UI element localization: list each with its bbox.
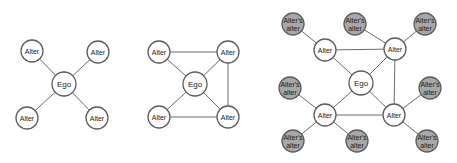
node-label: alter — [350, 142, 364, 149]
alters-alter-node: Alter'salter — [419, 77, 441, 99]
node-label: Alter's — [280, 81, 300, 88]
node-label: Alter — [90, 115, 105, 122]
node-label: Alter — [152, 49, 167, 56]
node-label: Alter — [152, 114, 167, 121]
alter-node: Alter — [86, 107, 108, 129]
alter-node: Alter — [16, 107, 38, 129]
node-label: alter — [420, 142, 434, 149]
node-label: Alter — [387, 112, 402, 119]
alters-alter-node: Alter'salter — [416, 130, 438, 152]
alter-node: Alter — [21, 40, 43, 62]
ego-only-network-panel: EgoAlterAlterAlterAlter — [16, 40, 109, 129]
alter-node: Alter — [217, 106, 239, 128]
alter-node: Alter — [217, 41, 239, 63]
ego-node: Ego — [349, 71, 373, 95]
alters-alter-node: Alter'salter — [282, 130, 304, 152]
alters-alter-node: Alter'salter — [344, 13, 366, 35]
node-label: Alter — [318, 47, 333, 54]
node-label: Alter — [25, 48, 40, 55]
node-label: Alter's — [345, 17, 365, 24]
node-label: alter — [418, 25, 432, 32]
ego-node: Ego — [183, 72, 207, 96]
node-label: Alter — [318, 112, 333, 119]
node-label: alter — [286, 142, 300, 149]
node-label: alter — [286, 25, 300, 32]
alters-alter-node: Alter'salter — [346, 130, 368, 152]
node-label: Alter — [221, 49, 236, 56]
alters-alter-node: Alter'salter — [279, 77, 301, 99]
node-label: Alter's — [415, 17, 435, 24]
ego-network-diagram: EgoAlterAlterAlterAlterEgoAlterAlterAlte… — [0, 0, 457, 163]
ego-node: Ego — [52, 72, 76, 96]
node-label: Alter — [91, 49, 106, 56]
node-label: alter — [348, 25, 362, 32]
node-label: alter — [423, 89, 437, 96]
alter-node: Alter — [87, 41, 109, 63]
node-label: Ego — [188, 80, 203, 89]
alter-node: Alter — [384, 38, 406, 60]
node-label: alter — [283, 89, 297, 96]
ego-with-alter-ties-panel: EgoAlterAlterAlterAlter — [148, 41, 239, 128]
alter-node: Alter — [314, 104, 336, 126]
node-label: Alter — [388, 46, 403, 53]
alters-alter-node: Alter'salter — [414, 13, 436, 35]
node-label: Alter — [20, 115, 35, 122]
node-label: Ego — [57, 80, 72, 89]
node-label: Alter — [221, 114, 236, 121]
node-label: Ego — [354, 79, 369, 88]
node-label: Alter's — [417, 134, 437, 141]
alter-node: Alter — [148, 106, 170, 128]
alter-node: Alter — [383, 104, 405, 126]
node-label: Alter's — [420, 81, 440, 88]
alter-node: Alter — [314, 39, 336, 61]
alters-alter-node: Alter'salter — [282, 13, 304, 35]
alter-node: Alter — [148, 41, 170, 63]
node-label: Alter's — [347, 134, 367, 141]
node-label: Alter's — [283, 134, 303, 141]
ego-with-alters-alters-panel: EgoAlterAlterAlterAlterAlter'salterAlter… — [279, 13, 441, 152]
node-label: Alter's — [283, 17, 303, 24]
